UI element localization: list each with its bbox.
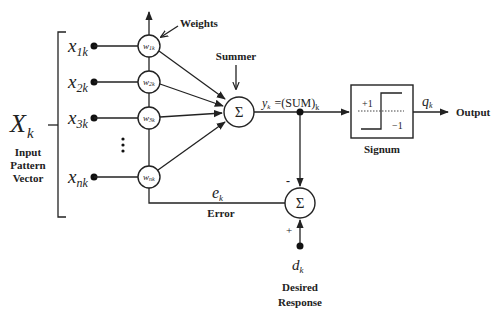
sigma-icon: Σ xyxy=(235,104,244,120)
input-bracket xyxy=(48,32,66,217)
input-label-n: xnk xyxy=(67,166,88,190)
weight-to-summer-lines xyxy=(158,51,225,170)
desired-node xyxy=(297,243,304,250)
input-label-1: x1k xyxy=(67,35,88,59)
desired-caption-2: Response xyxy=(278,296,322,308)
adaline-diagram: Xk Input Pattern Vector x1k x2k x3k xnk xyxy=(0,0,502,316)
weights-pointer-arrow xyxy=(161,26,178,37)
sigma-icon: Σ xyxy=(296,195,305,211)
weight-node-n: wnk xyxy=(138,166,160,188)
ellipsis-icon xyxy=(121,137,124,152)
desired-caption-1: Desired xyxy=(282,281,318,293)
error-plus-sign: + xyxy=(286,224,292,236)
error-minus-sign: - xyxy=(286,174,290,188)
output-label: Output xyxy=(456,106,491,118)
desired-symbol: dk xyxy=(292,257,305,275)
weight-node-3: w3k xyxy=(138,107,160,129)
input-lines xyxy=(91,43,139,181)
signum-minus-label: −1 xyxy=(392,120,403,131)
input-vector-caption-1: Input xyxy=(15,146,42,158)
signum-label: Signum xyxy=(364,143,400,155)
error-label: Error xyxy=(207,207,234,219)
input-label-3: x3k xyxy=(67,107,88,131)
output-symbol: qk xyxy=(422,94,433,110)
sum-output-label: yk=(SUM)k xyxy=(261,96,319,112)
signum-block: +1 −1 xyxy=(351,85,413,138)
error-summer-node: Σ xyxy=(285,188,315,218)
weight-node-1: w1k xyxy=(138,35,160,57)
input-vector-caption-3: Vector xyxy=(13,172,44,184)
weight-node-2: w2k xyxy=(138,71,160,93)
summer-label: Summer xyxy=(216,50,256,62)
summer-node: Σ xyxy=(224,97,254,127)
input-vector-caption-2: Pattern xyxy=(10,159,45,171)
input-label-2: x2k xyxy=(67,71,88,95)
input-vector-symbol: Xk xyxy=(9,109,34,141)
signum-plus-label: +1 xyxy=(362,98,373,109)
error-symbol: ek xyxy=(212,184,224,203)
weights-label: Weights xyxy=(180,17,219,29)
